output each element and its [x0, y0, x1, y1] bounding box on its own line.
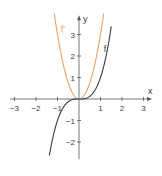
y-tick-label: −2: [66, 138, 76, 147]
y-tick-label: 3: [71, 31, 76, 40]
x-axis-arrow-icon: [147, 97, 152, 101]
function-plot: −3−2−1123−2−1123xyff': [0, 0, 162, 176]
x-tick-label: −3: [10, 104, 20, 113]
labels: −3−2−1123−2−1123xyff': [10, 14, 153, 147]
y-tick-label: −1: [66, 117, 76, 126]
curves: [49, 14, 111, 156]
y-tick-label: 2: [71, 52, 76, 61]
x-axis-label: x: [148, 86, 153, 96]
y-axis-label: y: [83, 14, 88, 24]
label-f: f: [104, 44, 107, 54]
y-tick-label: 1: [71, 74, 76, 83]
axes: [10, 15, 152, 159]
y-axis-arrow-icon: [77, 15, 81, 20]
x-tick-label: 1: [98, 104, 103, 113]
x-tick-label: 3: [141, 104, 146, 113]
x-tick-label: −1: [53, 104, 63, 113]
curve-f: [49, 26, 111, 155]
x-tick-label: −2: [31, 104, 41, 113]
x-tick-label: 2: [120, 104, 125, 113]
label-f-prime: f': [61, 24, 66, 34]
